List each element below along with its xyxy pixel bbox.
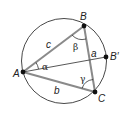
point-a bbox=[21, 70, 26, 75]
point-bprime bbox=[104, 55, 109, 60]
angle-beta-arc bbox=[72, 35, 86, 40]
label-side-c: c bbox=[46, 39, 51, 50]
label-side-a: a bbox=[91, 48, 97, 59]
label-angle-gamma: γ bbox=[80, 74, 85, 84]
label-c-vertex: C bbox=[98, 93, 106, 104]
label-b-vertex: B bbox=[80, 11, 87, 22]
label-a-vertex: A bbox=[12, 68, 20, 79]
point-c bbox=[93, 90, 98, 95]
angle-alpha-arc bbox=[36, 63, 39, 70]
point-b bbox=[82, 24, 87, 29]
label-bprime-vertex: B′ bbox=[110, 51, 120, 62]
circumcircle-triangle-diagram: A B C B′ c a b α β γ bbox=[0, 0, 127, 113]
label-angle-beta: β bbox=[73, 42, 78, 52]
label-side-b: b bbox=[54, 85, 60, 96]
line-a-bprime bbox=[23, 57, 106, 72]
label-angle-alpha: α bbox=[42, 62, 48, 72]
